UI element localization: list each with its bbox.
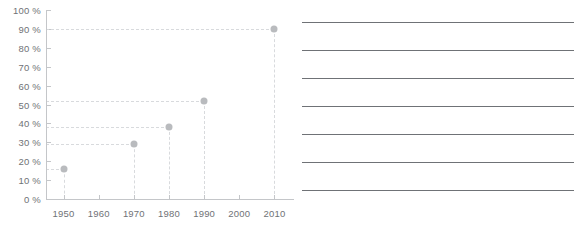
value-dropline [274, 29, 275, 199]
value-dropline [204, 101, 205, 199]
ruled-note-lines [300, 0, 578, 231]
note-rule-line [302, 106, 574, 107]
x-axis-tick-label: 2010 [263, 208, 285, 219]
x-axis-tick-label: 1970 [123, 208, 145, 219]
y-axis-tick-label: 0 % [3, 194, 41, 205]
value-gridline [46, 144, 134, 145]
y-axis-tick-label: 40 % [3, 118, 41, 129]
data-point-marker[interactable] [271, 25, 278, 32]
data-point-marker[interactable] [130, 141, 137, 148]
data-point-marker[interactable] [60, 165, 67, 172]
data-point-marker[interactable] [166, 124, 173, 131]
note-rule-line [302, 50, 574, 51]
y-axis-tick-label: 60 % [3, 80, 41, 91]
screenshot-root: 0 %10 %20 %30 %40 %50 %60 %70 %80 %90 %1… [0, 0, 578, 231]
y-axis-tick-label: 100 % [3, 5, 41, 16]
x-axis-tick-label: 1950 [53, 208, 75, 219]
scatter-chart: 0 %10 %20 %30 %40 %50 %60 %70 %80 %90 %1… [0, 0, 300, 231]
note-rule-line [302, 162, 574, 163]
y-axis-tick-label: 20 % [3, 156, 41, 167]
value-dropline [134, 144, 135, 199]
x-axis-tick-label: 1960 [88, 208, 110, 219]
note-rule-line [302, 190, 574, 191]
y-axis-tick-label: 50 % [3, 99, 41, 110]
data-point-marker[interactable] [201, 97, 208, 104]
x-axis-tick-label: 1980 [158, 208, 180, 219]
value-dropline [169, 127, 170, 199]
x-axis-tick-label: 1990 [193, 208, 215, 219]
y-axis-tick-label: 30 % [3, 137, 41, 148]
value-gridline [46, 101, 204, 102]
y-axis-tick-label: 10 % [3, 175, 41, 186]
value-gridline [46, 127, 169, 128]
y-axis-tick-label: 90 % [3, 23, 41, 34]
y-axis-tick-label: 80 % [3, 42, 41, 53]
note-rule-line [302, 78, 574, 79]
x-axis-tick-label: 2000 [228, 208, 250, 219]
x-axis-line [46, 199, 294, 200]
y-axis-line [46, 10, 47, 199]
note-rule-line [302, 134, 574, 135]
y-axis-tick-labels: 0 %10 %20 %30 %40 %50 %60 %70 %80 %90 %1… [0, 0, 41, 231]
value-gridline [46, 29, 274, 30]
note-rule-line [302, 22, 574, 23]
y-axis-tick-label: 70 % [3, 61, 41, 72]
